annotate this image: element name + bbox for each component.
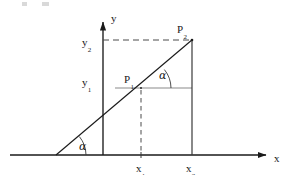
y1-tick-label: y1 xyxy=(82,73,91,92)
point-dot-p2 xyxy=(191,39,194,42)
diagram-svg xyxy=(0,0,290,175)
y2-tick-label: y2 xyxy=(82,33,91,52)
x-axis-label: x xyxy=(274,149,280,165)
angle-label-alpha-origin: α xyxy=(79,137,86,153)
slant-line xyxy=(56,40,193,156)
x2-tick-label: x2 xyxy=(186,159,195,175)
x1-tick-label: x1 xyxy=(136,159,145,175)
point-dot-p1 xyxy=(140,87,142,89)
point-label-p1: P1 xyxy=(124,70,134,89)
figure-canvas: y x y2 y1 x1 x2 P1 P2 α α xyxy=(0,0,290,175)
y-axis-label: y xyxy=(111,9,117,25)
angle-label-alpha-p1: α xyxy=(159,66,166,82)
point-label-p2: P2 xyxy=(177,20,187,39)
